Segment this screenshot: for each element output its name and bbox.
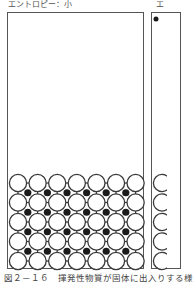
black-particle — [63, 228, 70, 235]
black-particle — [103, 248, 110, 255]
white-particle — [49, 233, 66, 250]
black-particle — [24, 248, 31, 255]
white-particle — [88, 174, 105, 191]
black-particle — [122, 228, 129, 235]
black-particle — [103, 209, 110, 216]
white-particle — [88, 252, 105, 269]
white-particle — [68, 233, 85, 250]
black-particle — [24, 189, 31, 196]
white-particle — [127, 174, 144, 191]
black-particle — [63, 248, 70, 255]
figure-caption: 図２－１６ 揮発性物質が固体に出入りする様 — [4, 271, 193, 283]
white-particle — [29, 252, 46, 269]
white-particle — [29, 213, 46, 230]
white-particle — [9, 174, 26, 191]
black-particle — [122, 248, 129, 255]
black-particle — [44, 209, 51, 216]
white-particle — [68, 213, 85, 230]
black-particle — [103, 228, 110, 235]
white-particle — [9, 252, 26, 269]
white-particle — [29, 194, 46, 211]
white-particle — [107, 194, 124, 211]
white-particle — [49, 194, 66, 211]
black-particle — [122, 209, 129, 216]
white-particle — [88, 194, 105, 211]
white-particle — [9, 213, 26, 230]
white-particle — [127, 213, 144, 230]
white-particle — [49, 213, 66, 230]
white-particle — [49, 252, 66, 269]
black-particle — [24, 209, 31, 216]
black-particle — [83, 209, 90, 216]
white-particle — [107, 174, 124, 191]
white-particle — [127, 252, 144, 269]
white-particle — [29, 233, 46, 250]
black-particle — [44, 228, 51, 235]
black-particle — [44, 248, 51, 255]
black-particle — [63, 209, 70, 216]
white-particle — [127, 233, 144, 250]
black-particle — [122, 189, 129, 196]
white-particle — [49, 174, 66, 191]
black-particle — [83, 189, 90, 196]
white-particle — [68, 174, 85, 191]
black-particle — [103, 189, 110, 196]
white-particle — [68, 194, 85, 211]
white-particle — [88, 213, 105, 230]
black-particle — [63, 189, 70, 196]
white-particle — [107, 233, 124, 250]
white-particle — [127, 194, 144, 211]
white-particle — [68, 252, 85, 269]
white-particle — [29, 174, 46, 191]
black-particle — [83, 248, 90, 255]
white-particle — [9, 233, 26, 250]
black-particle — [83, 228, 90, 235]
black-particle — [44, 189, 51, 196]
white-particle — [107, 213, 124, 230]
white-particle — [88, 233, 105, 250]
black-particle — [24, 228, 31, 235]
white-particle — [9, 194, 26, 211]
white-particle — [107, 252, 124, 269]
